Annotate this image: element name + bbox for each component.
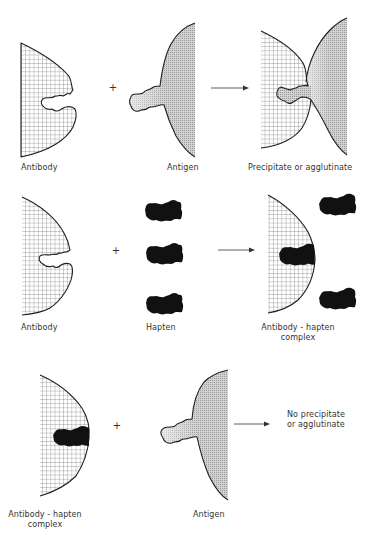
- hapten-shape: [146, 243, 183, 265]
- reaction-diagram: + +: [0, 0, 370, 540]
- label-antibody-hapten-complex: Antibody - hapten complex: [258, 323, 338, 343]
- label-line-1: Antibody - hapten: [5, 510, 85, 520]
- arrow: [234, 422, 270, 427]
- antigen-shape: [129, 23, 195, 157]
- label-antibody: Antibody: [21, 163, 58, 173]
- label-line-1: Antibody - hapten: [258, 323, 338, 333]
- label-line-2: complex: [258, 333, 338, 343]
- arrow: [211, 86, 249, 91]
- row-3: +: [40, 370, 270, 500]
- label-line-1: No precipitate: [287, 410, 345, 420]
- antibody-shape: [22, 197, 73, 315]
- free-hapten: [319, 194, 356, 216]
- label-no-precipitate: No precipitate or agglutinate: [287, 410, 345, 430]
- hapten-group: [145, 200, 183, 315]
- free-hapten: [319, 288, 356, 310]
- antibody-hapten-complex-shape: [40, 375, 89, 496]
- plus-sign: +: [113, 420, 121, 431]
- label-line-2: or agglutinate: [287, 420, 345, 430]
- row-1: +: [21, 18, 347, 157]
- plus-sign: +: [109, 82, 117, 93]
- label-hapten: Hapten: [146, 323, 176, 333]
- arrow: [218, 248, 255, 253]
- label-antibody-hapten-complex: Antibody - hapten complex: [5, 510, 85, 530]
- antibody-hapten-complex-shape: [268, 195, 315, 313]
- label-antigen: Antigen: [193, 510, 225, 520]
- precipitate-shape: [261, 18, 347, 155]
- row-2: +: [22, 194, 356, 315]
- antigen-shape: [161, 370, 228, 500]
- label-antibody: Antibody: [21, 323, 58, 333]
- plus-sign: +: [112, 245, 120, 256]
- label-precipitate: Precipitate or agglutinate: [248, 163, 352, 173]
- hapten-shape: [146, 293, 183, 315]
- hapten-shape: [145, 200, 182, 222]
- label-line-2: complex: [5, 520, 85, 530]
- label-antigen: Antigen: [167, 163, 199, 173]
- antibody-shape: [21, 43, 76, 157]
